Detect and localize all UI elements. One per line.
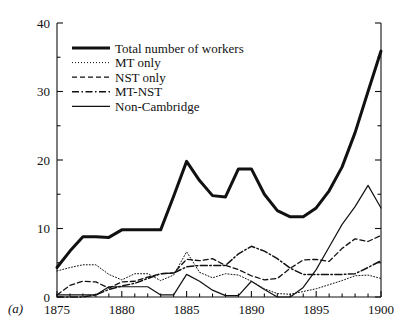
- x-tick-label: 1885: [174, 302, 200, 317]
- y-tick-label: 10: [37, 221, 50, 236]
- y-tick-label: 30: [37, 84, 50, 99]
- legend-label-3: MT-NST: [115, 84, 162, 99]
- legend-label-1: MT only: [115, 55, 161, 70]
- data-series-group: [57, 51, 381, 297]
- legend-label-4: Non-Cambridge: [115, 99, 200, 114]
- x-tick-label: 1875: [44, 302, 70, 317]
- x-tick-label: 1880: [109, 302, 135, 317]
- legend-label-0: Total number of workers: [115, 41, 244, 56]
- line-chart: 010203040187518801885189018951900 Total …: [0, 0, 413, 327]
- axis-tick-labels: 010203040187518801885189018951900: [37, 16, 394, 318]
- figure-panel-a: 010203040187518801885189018951900 Total …: [0, 0, 413, 327]
- x-tick-label: 1895: [303, 302, 329, 317]
- legend-label-2: NST only: [115, 70, 166, 85]
- chart-legend: Total number of workersMT onlyNST onlyMT…: [72, 41, 244, 114]
- series-line-4: [57, 185, 381, 297]
- x-tick-label: 1900: [368, 302, 394, 317]
- panel-label: (a): [8, 301, 23, 316]
- axes: [57, 23, 381, 297]
- x-tick-label: 1890: [238, 302, 264, 317]
- series-line-0: [57, 51, 381, 267]
- y-tick-label: 20: [37, 153, 50, 168]
- y-tick-label: 40: [37, 16, 50, 31]
